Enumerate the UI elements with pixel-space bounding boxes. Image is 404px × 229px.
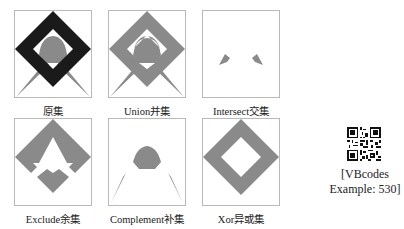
- panel-original: 原集: [14, 10, 92, 118]
- qr-caption: [VBcodes Example: 530]: [326, 167, 404, 197]
- panel-xor: Xor异或集: [202, 118, 280, 226]
- exclude-set-diagram: [15, 119, 91, 205]
- panel-label: 原集: [14, 103, 92, 118]
- qr-caption-line2: Example: 530]: [326, 182, 404, 197]
- panel-frame: [14, 118, 92, 206]
- panel-complement: Complement补集: [108, 118, 186, 226]
- intersect-set-diagram: [203, 11, 279, 97]
- panel-label: Union并集: [108, 103, 186, 118]
- original-set-diagram: [15, 11, 91, 97]
- qr-code-icon: [347, 127, 381, 161]
- panel-frame: [108, 10, 186, 98]
- panel-exclude: Exclude余集: [14, 118, 92, 226]
- panel-frame: [202, 10, 280, 98]
- panel-label: Exclude余集: [14, 211, 92, 226]
- panel-union: Union并集: [108, 10, 186, 118]
- panel-label: Complement补集: [108, 211, 186, 226]
- complement-set-diagram: [109, 119, 185, 205]
- panel-frame: [202, 118, 280, 206]
- panel-intersect: Intersect交集: [202, 10, 280, 118]
- panel-label: Xor异或集: [202, 211, 280, 226]
- panel-frame: [14, 10, 92, 98]
- panel-label: Intersect交集: [202, 103, 280, 118]
- qr-caption-line1: [VBcodes: [326, 167, 404, 182]
- xor-set-diagram: [203, 119, 279, 205]
- panel-frame: [108, 118, 186, 206]
- union-set-diagram: [109, 11, 185, 97]
